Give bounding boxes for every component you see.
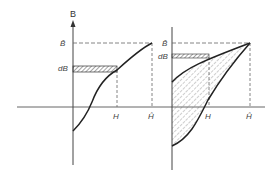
right-db-label: dB <box>158 52 168 61</box>
right-h-label: H <box>205 112 211 121</box>
b-axis-arrow-icon <box>71 20 76 27</box>
bh-curve-diagram: B B̂ dB H Ĥ B̂ dB H Ĥ <box>0 0 273 176</box>
left-hmax-label: Ĥ <box>148 112 154 121</box>
left-b-axis-label: B <box>70 9 76 19</box>
right-panel: B̂ dB H Ĥ <box>158 27 252 170</box>
right-db-strip <box>172 54 209 58</box>
left-h-label: H <box>113 112 119 121</box>
right-hmax-label: Ĥ <box>246 112 252 121</box>
right-bmax-label: B̂ <box>162 39 168 48</box>
left-panel: B B̂ dB H Ĥ <box>58 9 154 165</box>
left-db-strip <box>73 66 117 72</box>
left-db-label: dB <box>58 64 68 73</box>
left-bmax-label: B̂ <box>60 39 66 48</box>
